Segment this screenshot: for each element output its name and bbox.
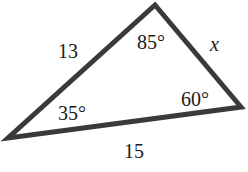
side-bottom-label: 15 bbox=[124, 140, 144, 162]
triangle-diagram: 13 85° x 35° 60° 15 bbox=[0, 0, 248, 172]
side-right-label: x bbox=[209, 33, 219, 55]
angle-right-label: 60° bbox=[181, 88, 209, 110]
triangle-shape bbox=[8, 5, 241, 138]
side-left-label: 13 bbox=[58, 40, 78, 62]
angle-bottom-left-label: 35° bbox=[58, 102, 86, 124]
angle-top-label: 85° bbox=[137, 31, 165, 53]
